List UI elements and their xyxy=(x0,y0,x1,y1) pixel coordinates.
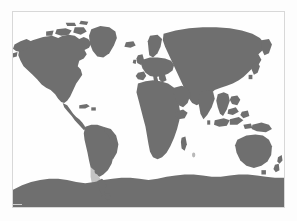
scale-tick-mark xyxy=(13,204,22,205)
figure-page xyxy=(0,0,297,221)
world-map-panel[interactable] xyxy=(12,11,285,208)
figure-plate xyxy=(0,0,297,221)
region-tasmania[interactable] xyxy=(261,170,266,174)
marker-south-pacific-point[interactable] xyxy=(192,153,195,158)
world-map-svg[interactable] xyxy=(13,12,284,207)
